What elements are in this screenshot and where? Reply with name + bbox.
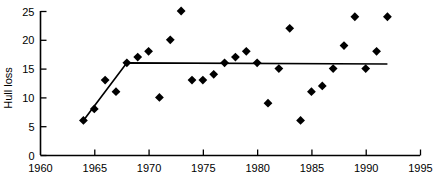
x-tick-label: 1970 <box>137 162 161 174</box>
data-point-marker <box>383 12 392 21</box>
chart-canvas: 0510152025 19601965197019751980198519901… <box>0 0 436 191</box>
data-point-marker <box>177 7 186 16</box>
data-point-marker <box>188 76 197 85</box>
y-tick-label: 5 <box>28 121 34 133</box>
y-tick-label: 10 <box>22 92 34 104</box>
data-point-marker <box>329 64 338 73</box>
x-axis-group: 19601965197019751980198519901995 <box>28 150 432 174</box>
y-axis-title: Hull loss <box>2 67 14 109</box>
data-point-marker <box>166 35 175 44</box>
data-point-marker <box>231 53 240 62</box>
x-tick-label: 1985 <box>300 162 324 174</box>
data-point-marker <box>372 47 381 56</box>
y-tick-label: 25 <box>22 6 34 18</box>
data-point-marker <box>90 105 99 114</box>
x-tick-label: 1975 <box>191 162 215 174</box>
data-point-marker <box>264 99 273 108</box>
data-point-marker <box>198 76 207 85</box>
data-point-marker <box>220 58 229 67</box>
y-axis-group: 0510152025 <box>22 6 46 162</box>
data-point-marker <box>274 64 283 73</box>
data-point-marker <box>242 47 251 56</box>
data-point-marker <box>296 116 305 125</box>
data-point-marker <box>285 24 294 33</box>
x-tick-label: 1995 <box>408 162 432 174</box>
data-point-marker <box>133 53 142 62</box>
x-tick-label: 1965 <box>83 162 107 174</box>
data-point-markers <box>79 7 392 125</box>
data-point-marker <box>350 12 359 21</box>
piecewise-trend-line <box>83 63 387 121</box>
data-point-marker <box>144 47 153 56</box>
x-tick-label: 1980 <box>245 162 269 174</box>
x-axis-ticks <box>95 150 421 156</box>
x-tick-label: 1990 <box>354 162 378 174</box>
data-point-marker <box>253 58 262 67</box>
y-tick-label: 15 <box>22 63 34 75</box>
data-point-marker <box>361 64 370 73</box>
data-point-marker <box>307 87 316 96</box>
y-axis-ticks <box>41 12 47 156</box>
y-tick-label: 20 <box>22 34 34 46</box>
x-tick-label: 1960 <box>28 162 52 174</box>
hull-loss-scatter-chart: 0510152025 19601965197019751980198519901… <box>0 0 436 191</box>
data-point-marker <box>318 81 327 90</box>
y-tick-label: 0 <box>28 150 34 162</box>
data-point-marker <box>155 93 164 102</box>
data-point-marker <box>209 70 218 79</box>
data-point-marker <box>340 41 349 50</box>
x-axis-tick-labels: 19601965197019751980198519901995 <box>28 162 432 174</box>
y-axis-tick-labels: 0510152025 <box>22 6 34 162</box>
data-point-marker <box>112 87 121 96</box>
data-point-marker <box>101 76 110 85</box>
trend-line-group <box>83 63 387 121</box>
